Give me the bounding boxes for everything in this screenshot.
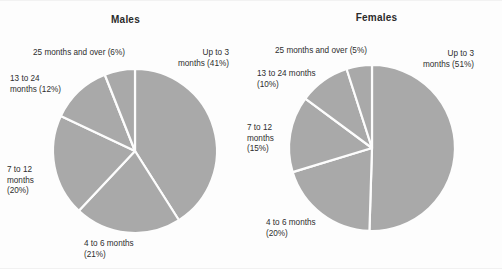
slice-label-females-4-to-6: 4 to 6 months (20%) <box>266 218 316 239</box>
slice-label-males-up-to-3: Up to 3 months (41%) <box>178 48 229 69</box>
chart-title-males: Males <box>0 14 251 25</box>
slice-label-males-7-to-12: 7 to 12 months (20%) <box>7 165 34 197</box>
slice-label-females-25-months-and-over: 25 months and over (5%) <box>275 46 367 57</box>
slice-label-males-25-months-and-over: 25 months and over (6%) <box>33 48 125 59</box>
slice-label-females-up-to-3: Up to 3 months (51%) <box>423 49 474 70</box>
slice-label-females-7-to-12: 7 to 12 months (15%) <box>247 123 274 155</box>
slice-label-males-4-to-6: 4 to 6 months (21%) <box>84 239 134 260</box>
panel-males: Males <box>0 1 251 269</box>
slice-label-females-13-to-24: 13 to 24 months (10%) <box>257 69 316 90</box>
slice-label-males-13-to-24: 13 to 24 months (12%) <box>10 74 61 95</box>
chart-title-females: Females <box>251 12 502 23</box>
chart-page: Males Up to 3 months (41%) 25 months and… <box>0 0 502 269</box>
